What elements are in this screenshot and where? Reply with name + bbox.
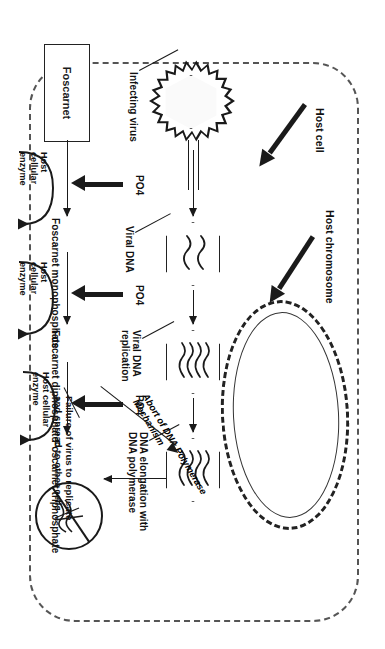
- po4-arrow-1-shaft: [83, 182, 123, 187]
- foscarnet-triphosphate-label: Foscarnet triphosphate: [50, 440, 61, 553]
- dna-to-replication-arrow: [193, 290, 194, 324]
- di-to-tri-arrow: [67, 362, 68, 434]
- virus-entry-line-top: [198, 140, 199, 190]
- virus-to-dna-arrow: [193, 150, 194, 216]
- virus-icon: [149, 58, 235, 144]
- foscarnet-to-mono-arrow: [67, 140, 68, 216]
- viral-dna-capsule: [168, 222, 220, 284]
- host-cell-label: Host cell: [313, 108, 325, 153]
- foscarnet-label: Foscarnet: [45, 45, 89, 141]
- host-chromosome-label: Host chromosome: [323, 210, 335, 304]
- po4-label-3: PO4: [134, 395, 145, 415]
- mono-to-di-arrow: [67, 252, 68, 324]
- viral-dna-replication-label: Viral DNA replication: [120, 330, 142, 382]
- elongation-to-block-arrow: [104, 478, 166, 479]
- host-cellular-enzyme-label-3: Host cellular enzyme: [30, 372, 51, 427]
- dna-elongation-label: DNA elongation with DNA polymerase: [127, 432, 149, 531]
- po4-label-1: PO4: [134, 175, 145, 195]
- virus-entry-line-bottom: [188, 140, 189, 190]
- foscarnet-mechanism-figure: Host cell Host chromosome Infecting viru…: [0, 0, 385, 649]
- po4-arrow-3-head: [71, 395, 85, 411]
- viral-dna-replication-capsule: [168, 330, 220, 392]
- viral-dna-strands: [168, 222, 220, 284]
- foscarnet-box: Foscarnet: [44, 44, 90, 142]
- po4-arrow-2-shaft: [83, 292, 123, 297]
- po4-arrow-3-shaft: [83, 402, 123, 407]
- po4-arrow-2-head: [71, 285, 85, 301]
- host-cellular-enzyme-label-1: Host cellular enzyme: [18, 152, 49, 186]
- replication-to-elongation-arrow: [193, 398, 194, 432]
- po4-arrow-1-head: [71, 175, 85, 191]
- po4-label-2: PO4: [134, 285, 145, 305]
- viral-dna-label: Viral DNA: [124, 226, 135, 273]
- figure-canvas: Host cell Host chromosome Infecting viru…: [0, 0, 385, 649]
- replication-strands: [168, 330, 220, 392]
- infecting-virus-label: Infecting virus: [128, 72, 139, 142]
- host-cellular-enzyme-label-2: Host cellular enzyme: [18, 262, 49, 296]
